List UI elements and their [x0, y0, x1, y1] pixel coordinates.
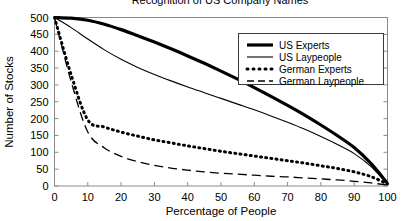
y-tick-label: 200 [30, 113, 48, 125]
y-axis-title: Number of Stocks [3, 56, 15, 148]
legend-label-us-laypeople: US Laypeople [279, 52, 342, 63]
x-tick-label: 0 [51, 191, 57, 203]
y-tick-label: 500 [30, 12, 48, 24]
y-tick-label: 450 [30, 28, 48, 40]
recognition-line-chart: Recognition of US Company Names 05010015… [0, 0, 401, 221]
chart-title: Recognition of US Company Names [132, 0, 309, 6]
x-tick-label: 40 [182, 191, 194, 203]
y-tick-label: 50 [36, 163, 48, 175]
x-tick-label: 20 [115, 191, 127, 203]
x-tick-label: 70 [281, 191, 293, 203]
x-tick-label: 80 [315, 191, 327, 203]
y-tick-label: 150 [30, 129, 48, 141]
x-axis-title: Percentage of People [166, 205, 277, 217]
chart-figure: Recognition of US Company Names 05010015… [0, 0, 401, 221]
y-tick-label: 400 [30, 45, 48, 57]
x-axis: 0102030405060708090100 [51, 182, 396, 203]
y-tick-label: 250 [30, 96, 48, 108]
x-tick-label: 100 [378, 191, 396, 203]
x-tick-label: 90 [348, 191, 360, 203]
legend-label-german-experts: German Experts [279, 64, 352, 75]
legend-label-german-laypeople: German Laypeople [279, 76, 364, 87]
legend-label-us-experts: US Experts [279, 40, 330, 51]
y-tick-label: 100 [30, 146, 48, 158]
y-tick-label: 300 [30, 79, 48, 91]
x-tick-label: 10 [82, 191, 94, 203]
x-tick-label: 60 [248, 191, 260, 203]
chart-legend: US ExpertsUS LaypeopleGerman ExpertsGerm… [239, 34, 384, 87]
y-tick-label: 350 [30, 62, 48, 74]
x-tick-label: 30 [148, 191, 160, 203]
y-tick-label: 0 [42, 180, 48, 192]
x-tick-label: 50 [215, 191, 227, 203]
